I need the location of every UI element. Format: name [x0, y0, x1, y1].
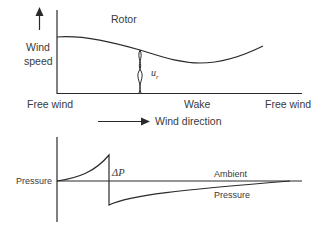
- velocity-label-sub: r: [156, 73, 159, 81]
- wind-speed-chart: [57, 10, 302, 94]
- x-label-free-wind-left: Free wind: [27, 98, 73, 110]
- wind-speed-label-line2: speed: [24, 55, 53, 67]
- pressure-axis-label: Pressure: [16, 175, 52, 187]
- wind-speed-arrow-icon: [36, 7, 44, 30]
- x-label-wake: Wake: [184, 98, 210, 110]
- pressure-curve: [57, 155, 290, 205]
- pressure-chart: [57, 137, 302, 222]
- delta-p-label: ΔP: [112, 167, 125, 179]
- velocity-label: ur: [151, 67, 159, 83]
- ambient-pressure-label: Pressure: [214, 189, 250, 201]
- wind-direction-arrow-icon: [98, 118, 150, 126]
- rotor-blade-icon: [138, 50, 142, 93]
- ambient-label: Ambient: [214, 168, 247, 180]
- wind-speed-label-line1: Wind: [26, 41, 50, 53]
- rotor-label: Rotor: [111, 13, 137, 25]
- wind-speed-curve: [57, 37, 263, 63]
- wind-direction-label: Wind direction: [155, 115, 222, 127]
- x-label-free-wind-right: Free wind: [265, 98, 311, 110]
